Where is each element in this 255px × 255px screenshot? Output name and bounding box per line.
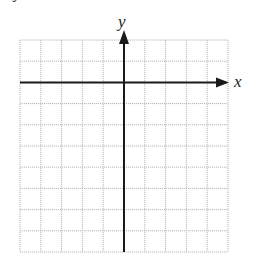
corner-label-fragment: y (12, 0, 22, 2)
coordinate-grid-diagram: y x y (0, 0, 255, 255)
x-axis-arrowhead-icon (216, 77, 229, 87)
axes (20, 30, 229, 252)
x-axis-label: x (233, 72, 242, 91)
y-axis-label: y (116, 12, 126, 31)
y-axis-arrowhead-icon (119, 30, 129, 44)
